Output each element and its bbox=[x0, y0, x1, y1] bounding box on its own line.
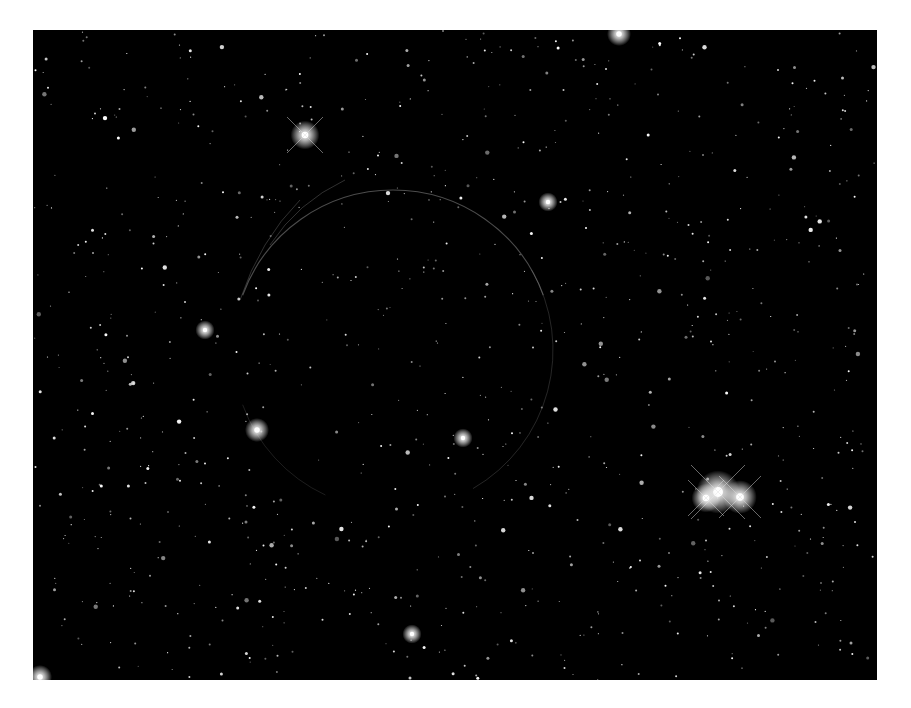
stars bbox=[34, 30, 876, 680]
nebula-ring bbox=[240, 180, 553, 495]
star-field bbox=[33, 30, 877, 680]
star-field-image bbox=[33, 30, 877, 680]
bright-stars bbox=[33, 30, 761, 680]
